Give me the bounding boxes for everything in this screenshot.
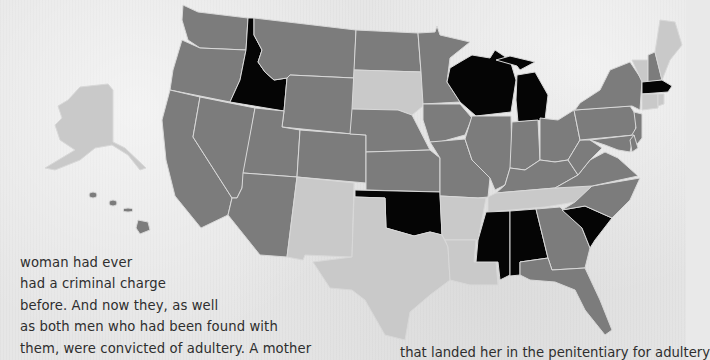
state-washington bbox=[182, 5, 248, 50]
state-connecticut bbox=[642, 94, 658, 110]
state-alaska bbox=[45, 84, 146, 170]
state-hawaii bbox=[89, 192, 150, 234]
state-new-york bbox=[575, 62, 642, 110]
state-north-dakota bbox=[354, 30, 421, 72]
state-kansas bbox=[366, 150, 440, 192]
state-iowa bbox=[423, 104, 472, 142]
article-text-left: woman had ever had a criminal charge bef… bbox=[20, 252, 311, 359]
state-south-dakota bbox=[352, 70, 423, 115]
article-text-right: that landed her in the penitentiary for … bbox=[400, 345, 710, 360]
state-pennsylvania bbox=[574, 106, 638, 140]
article-line: woman had ever bbox=[20, 252, 311, 273]
state-massachusetts bbox=[642, 80, 672, 94]
state-montana bbox=[254, 18, 356, 80]
article-line: them, were convicted of adultery. A moth… bbox=[20, 338, 311, 359]
article-line: before. And now they, as well bbox=[20, 295, 311, 316]
article-line: had a criminal charge bbox=[20, 273, 311, 294]
article-line: as both men who had been found with bbox=[20, 316, 311, 337]
state-new-mexico bbox=[287, 177, 354, 260]
state-colorado bbox=[297, 130, 366, 183]
state-wyoming bbox=[282, 75, 354, 134]
state-florida bbox=[520, 258, 612, 335]
state-arkansas bbox=[440, 196, 486, 240]
state-rhode-island bbox=[658, 94, 664, 106]
